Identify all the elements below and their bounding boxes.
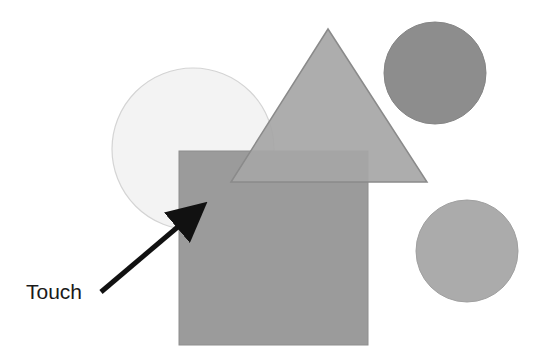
touch-label: Touch <box>26 281 82 302</box>
light-circle-shape[interactable] <box>416 200 518 302</box>
shapes-diagram <box>0 0 544 362</box>
dark-circle-shape[interactable] <box>384 22 486 124</box>
